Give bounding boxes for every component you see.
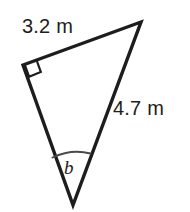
side-length-label-top: 3.2 m — [22, 16, 73, 36]
geometry-figure: 3.2 m 4.7 m b — [0, 0, 190, 212]
side-length-label-right: 4.7 m — [113, 98, 164, 118]
angle-label-b: b — [64, 158, 74, 177]
